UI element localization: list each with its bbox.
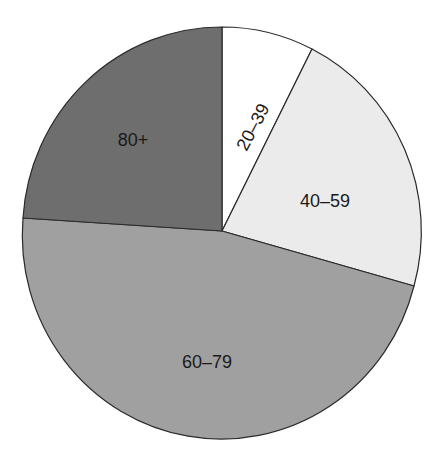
pie-chart: 20–39 40–59 60–79 80+ — [0, 0, 444, 461]
label-60-79: 60–79 — [182, 352, 232, 372]
label-80-plus: 80+ — [118, 130, 149, 150]
label-40-59: 40–59 — [300, 191, 350, 211]
pie-slice-80-plus — [23, 27, 222, 231]
